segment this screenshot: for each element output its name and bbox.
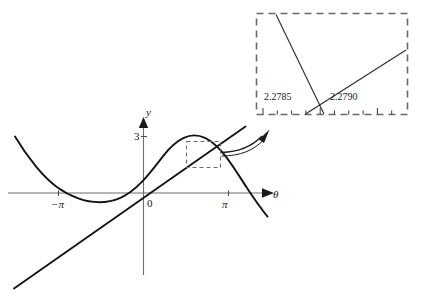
x-axis (8, 188, 274, 197)
y-axis-label: y (146, 107, 151, 118)
linear-curve-zoomed (306, 50, 407, 114)
inset-axis-ticks (263, 108, 392, 115)
x-axis-label: θ (273, 189, 278, 200)
inset-tick-label-1: 2.2785 (264, 92, 292, 102)
inset-tick-label-2: 2.2790 (330, 92, 358, 102)
origin-label: 0 (147, 198, 153, 209)
figure-canvas (0, 0, 422, 296)
x-tick-label-pi: π (222, 199, 228, 210)
zoom-callout-arrowhead (259, 130, 270, 144)
main-plot (8, 117, 274, 289)
y-axis-arrowhead (139, 117, 148, 128)
y-tick-label-3: 3 (134, 131, 140, 142)
linear-curve (14, 127, 246, 289)
x-tick-label-neg-pi: −π (51, 199, 64, 210)
zoom-callout-arrow (222, 130, 270, 157)
figure-container: y θ 3 0 −π π 2.2785 2.2790 (0, 0, 422, 296)
